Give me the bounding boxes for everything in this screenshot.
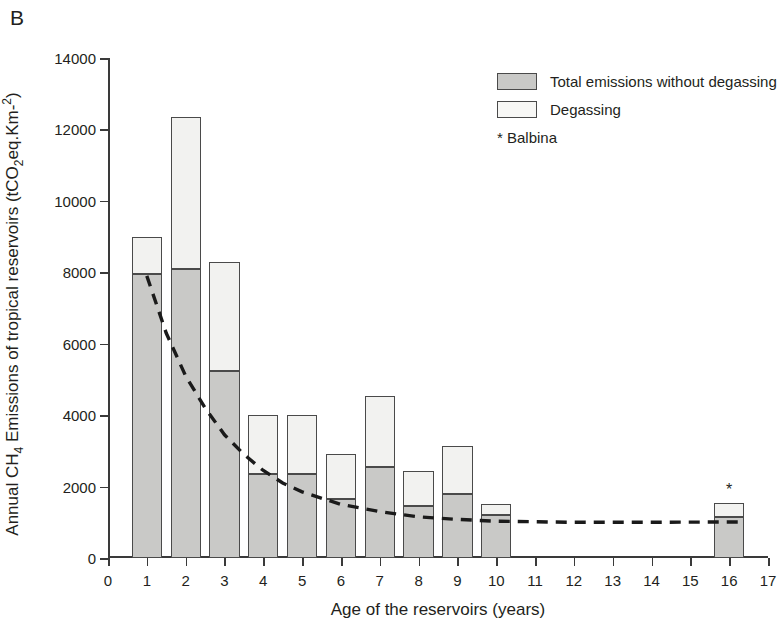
x-tick-label: 11 [527,572,543,589]
x-tick-label: 16 [721,572,738,589]
y-tick-mark [100,415,108,417]
x-tick-label: 10 [488,572,505,589]
y-tick-mark [100,129,108,131]
y-axis-title-mid: Emissions of tropical reservoirs (tCO [3,166,22,447]
x-tick-label: 9 [453,572,461,589]
x-tick-label: 13 [604,572,621,589]
x-tick-mark [224,558,226,566]
y-tick-mark [100,58,108,60]
y-axis-title: Annual CH4 Emissions of tropical reservo… [0,54,25,574]
legend-label-degassing: Degassing [550,101,621,118]
x-tick-mark [302,558,304,566]
x-tick-mark [263,558,265,566]
y-tick-mark [100,201,108,203]
legend-item-total-emissions: Total emissions without degassing [497,73,777,90]
x-tick-label: 4 [259,572,267,589]
legend-swatch-white [497,101,537,118]
y-axis-title-sup-2: 2 [0,98,14,105]
legend-note-balbina: * Balbina [497,129,777,146]
x-tick-label: 0 [104,572,112,589]
x-tick-mark [496,558,498,566]
x-tick-mark [341,558,343,566]
y-tick-label: 0 [88,550,96,567]
y-tick-mark [100,272,108,274]
x-tick-mark [729,558,731,566]
y-tick-label: 14000 [54,50,96,67]
x-tick-label: 3 [220,572,228,589]
x-tick-label: 12 [566,572,583,589]
x-tick-label: 17 [760,572,777,589]
x-tick-label: 14 [643,572,660,589]
y-tick-label: 4000 [63,407,96,424]
y-tick-mark [100,487,108,489]
y-tick-label: 12000 [54,121,96,138]
x-tick-label: 15 [682,572,699,589]
legend-item-degassing: Degassing [497,101,777,118]
y-tick-mark [100,344,108,346]
chart-legend: Total emissions without degassing Degass… [497,73,777,146]
y-tick-label: 2000 [63,478,96,495]
x-tick-mark [380,558,382,566]
y-axis-title-prefix: Annual CH [3,453,22,535]
x-tick-mark [613,558,615,566]
y-axis-title-close: ) [3,92,22,98]
chart-plot-area: Annual CH4 Emissions of tropical reservo… [0,0,780,628]
x-tick-label: 6 [337,572,345,589]
x-tick-label: 7 [376,572,384,589]
y-axis-title-sub-2: 2 [12,160,26,167]
x-tick-mark [574,558,576,566]
x-tick-mark [419,558,421,566]
y-axis-title-sub-4: 4 [12,447,26,454]
x-tick-label: 5 [298,572,306,589]
legend-swatch-gray [497,73,537,90]
x-tick-label: 2 [181,572,189,589]
y-axis-title-suffix: eq.Km- [3,105,22,160]
x-tick-label: 1 [143,572,151,589]
legend-label-total-emissions: Total emissions without degassing [550,73,777,90]
x-tick-mark [147,558,149,566]
x-tick-mark [108,558,110,566]
x-tick-mark [768,558,770,566]
x-tick-mark [186,558,188,566]
x-tick-mark [535,558,537,566]
x-tick-mark [690,558,692,566]
x-tick-mark [457,558,459,566]
x-axis-title: Age of the reservoirs (years) [108,600,768,620]
y-tick-label: 8000 [63,264,96,281]
y-tick-label: 6000 [63,335,96,352]
x-tick-label: 8 [414,572,422,589]
y-tick-mark [100,558,108,560]
y-tick-label: 10000 [54,192,96,209]
x-tick-mark [652,558,654,566]
